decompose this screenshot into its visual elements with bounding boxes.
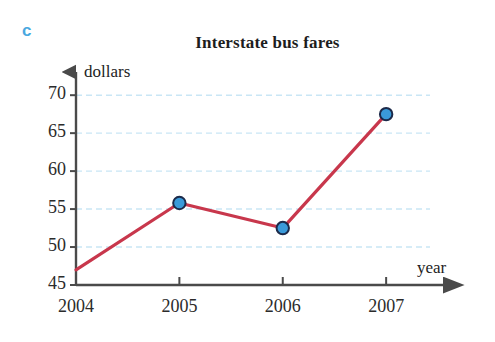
y-tick-label: 60	[22, 159, 66, 180]
x-tick-label: 2005	[144, 296, 214, 317]
x-tick-label: 2004	[41, 296, 111, 317]
chart-figure: c Interstate bus fares dollars year 4550…	[0, 0, 495, 342]
y-tick-label: 65	[22, 121, 66, 142]
y-axis-title: dollars	[84, 62, 130, 82]
x-tick-label: 2007	[351, 296, 421, 317]
data-point-marker	[277, 222, 289, 234]
line-chart-plot	[0, 0, 495, 342]
data-point-marker	[380, 108, 392, 120]
x-axis-title: year	[417, 258, 446, 278]
y-tick-label: 45	[22, 273, 66, 294]
y-tick-label: 50	[22, 235, 66, 256]
data-point-marker	[173, 197, 185, 209]
y-tick-label: 55	[22, 197, 66, 218]
y-tick-label: 70	[22, 83, 66, 104]
x-tick-label: 2006	[248, 296, 318, 317]
gridlines	[76, 95, 430, 247]
